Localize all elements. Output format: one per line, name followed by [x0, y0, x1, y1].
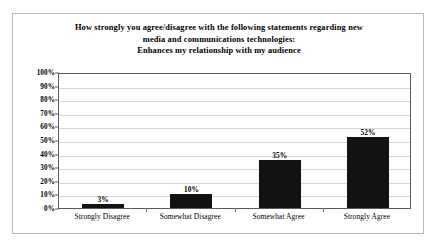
x-axis-tick-label: Strongly Disagree — [58, 212, 146, 221]
bar-value-label: 52% — [348, 128, 388, 137]
x-axis-tick-mark — [146, 208, 147, 212]
plot-area: 3%10%35%52% — [58, 73, 411, 209]
bar-value-label: 35% — [260, 151, 300, 160]
chart-title-line-1: How strongly you agree/disagree with the… — [13, 22, 425, 34]
y-axis-tick-label: 70% — [15, 110, 55, 118]
y-axis-tick-label: 60% — [15, 123, 55, 131]
chart-frame: How strongly you agree/disagree with the… — [12, 13, 424, 234]
x-axis-tick-mark — [323, 208, 324, 212]
bar — [347, 137, 389, 208]
y-axis-tick-label: 10% — [15, 191, 55, 199]
x-axis-tick-label: Somewhat Disagree — [146, 212, 234, 221]
bar-value-label: 10% — [171, 185, 211, 194]
bar — [82, 204, 124, 208]
y-axis-tick-label: 90% — [15, 83, 55, 91]
y-axis-tick-label: 30% — [15, 164, 55, 172]
y-axis-tick-label: 100% — [15, 69, 55, 77]
y-axis: 0%10%20%30%40%50%60%70%80%90%100% — [13, 73, 55, 209]
gridline — [59, 88, 410, 89]
bar — [170, 194, 212, 208]
gridline — [59, 101, 410, 102]
x-axis-tick-mark — [235, 208, 236, 212]
bar — [259, 160, 301, 208]
chart-title-line-2: media and communications technologies: — [13, 34, 425, 46]
y-axis-tick-label: 50% — [15, 137, 55, 145]
x-axis-tick-label: Somewhat Agree — [235, 212, 323, 221]
chart-title: How strongly you agree/disagree with the… — [13, 22, 425, 57]
x-axis: Strongly DisagreeSomewhat DisagreeSomewh… — [58, 212, 411, 228]
bar-value-label: 3% — [83, 195, 123, 204]
x-axis-tick-label: Strongly Agree — [323, 212, 411, 221]
chart-title-line-3: Enhances my relationship with my audienc… — [13, 45, 425, 57]
gridline — [59, 115, 410, 116]
y-axis-tick-label: 40% — [15, 151, 55, 159]
y-axis-tick-label: 0% — [15, 205, 55, 213]
y-axis-tick-label: 80% — [15, 96, 55, 104]
y-axis-tick-label: 20% — [15, 178, 55, 186]
